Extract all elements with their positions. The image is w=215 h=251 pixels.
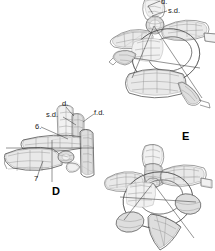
label-sd-figd: s.d. xyxy=(46,111,58,119)
figure-bottom-right-vertebra xyxy=(106,142,214,251)
label-d-figd: d. xyxy=(62,100,68,108)
figure-plate: d. s.d. xyxy=(0,0,215,251)
e-vertebra-mesh xyxy=(105,144,213,250)
label-sd-top: s.d. xyxy=(168,7,180,15)
label-d-top: d. xyxy=(161,0,167,6)
label-7-figd: 7 xyxy=(34,175,38,183)
panel-label-d: D xyxy=(52,186,60,197)
label-fd-figd: f.d. xyxy=(94,109,104,117)
label-6-figd: 6. xyxy=(35,123,41,131)
panel-label-e: E xyxy=(182,131,189,142)
